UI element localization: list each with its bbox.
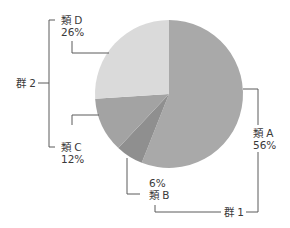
label-d-name: 類 D: [61, 14, 82, 26]
label-a-name: 類 A: [253, 127, 274, 139]
label-group-1: 群 1: [224, 206, 244, 218]
pie-chart: [0, 0, 290, 228]
label-b-pct: 6%: [149, 177, 166, 189]
leader-line-c: [72, 115, 99, 125]
label-a-pct: 56%: [253, 139, 276, 151]
pie-slices: [95, 20, 243, 168]
label-d-pct: 26%: [61, 26, 84, 38]
group-2-bracket: [38, 20, 55, 147]
pie-slice-d: [95, 20, 169, 99]
label-c-name: 類 C: [61, 141, 82, 153]
leader-line-d: [72, 41, 109, 53]
leader-line-b: [127, 158, 140, 194]
label-c-pct: 12%: [61, 153, 84, 165]
label-group-2: 群 2: [16, 77, 36, 89]
label-b-name: 類 B: [149, 189, 170, 201]
